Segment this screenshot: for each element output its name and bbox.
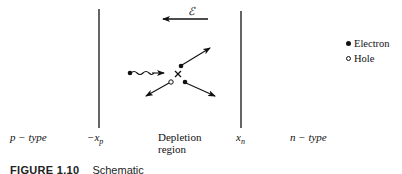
hole-arrow bbox=[146, 83, 169, 96]
electron-up-arrow bbox=[182, 48, 210, 65]
figure-caption: FIGURE 1.10 Schematic bbox=[10, 164, 144, 174]
field-label: ℰ bbox=[188, 5, 195, 17]
open-circle-icon bbox=[346, 56, 351, 61]
depletion-label-line1: Depletion bbox=[158, 131, 201, 143]
wavy-path bbox=[131, 72, 154, 75]
legend-item-hole: Hole bbox=[346, 51, 390, 66]
p-type-label: p − type bbox=[10, 131, 47, 143]
hole bbox=[169, 80, 173, 84]
ionization-event-icon bbox=[175, 71, 181, 77]
left-boundary-label: −xp bbox=[87, 131, 103, 148]
filled-circle-icon bbox=[346, 41, 351, 46]
legend-item-electron: Electron bbox=[346, 36, 390, 51]
right-boundary-label: xn bbox=[236, 131, 245, 148]
n-type-label: n − type bbox=[290, 131, 327, 143]
legend: Electron Hole bbox=[346, 36, 390, 66]
depletion-label-line2: region bbox=[158, 143, 186, 155]
electron-down-arrow bbox=[186, 83, 215, 96]
depletion-region-diagram bbox=[0, 0, 402, 174]
